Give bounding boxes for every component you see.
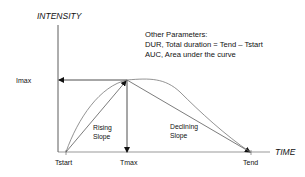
intensity-curve — [66, 79, 250, 152]
parameter-auc: AUC, Area under the curve — [145, 50, 263, 60]
y-axis-label: INTENSITY — [37, 12, 81, 21]
rising-slope-arrow — [66, 81, 126, 152]
rising-slope-label: Rising Slope — [93, 123, 112, 141]
x-axis-label: TIME — [275, 148, 295, 157]
intensity-time-diagram: INTENSITY TIME Imax Tstart Tmax Tend Ris… — [0, 0, 305, 177]
imax-label: Imax — [16, 77, 31, 84]
tend-label: Tend — [243, 159, 258, 166]
declining-slope-label: Declining Slope — [170, 122, 198, 140]
parameter-dur: DUR, Total duration = Tend – Tstart — [145, 40, 263, 50]
tstart-label: Tstart — [55, 159, 72, 166]
diagram-canvas — [0, 0, 305, 177]
declining-slope-arrow — [127, 80, 250, 152]
parameters-heading: Other Parameters: — [145, 30, 263, 40]
tmax-label: Tmax — [120, 159, 138, 166]
other-parameters: Other Parameters: DUR, Total duration = … — [145, 30, 263, 60]
